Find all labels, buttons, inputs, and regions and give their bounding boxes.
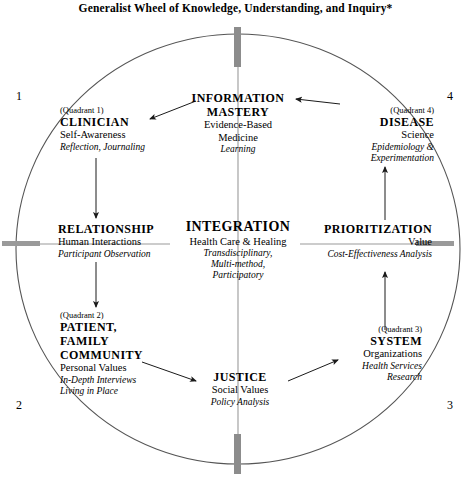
patient-method-line1: In-Depth Interviews xyxy=(60,375,200,386)
integration-heading: INTEGRATION xyxy=(168,219,308,236)
information-mastery-subject-line2: Medicine xyxy=(178,132,298,144)
system-quadrant-label: (Quadrant 3) xyxy=(312,324,422,334)
disease-method-line1: Epidemiology & xyxy=(318,142,434,153)
corner-number-2: 2 xyxy=(16,398,22,413)
patient-heading-line3: COMMUNITY xyxy=(60,348,200,362)
corner-number-3: 3 xyxy=(447,398,453,413)
node-patient-family-community: (Quadrant 2) PATIENT, FAMILY COMMUNITY P… xyxy=(60,310,200,397)
clinician-heading: CLINICIAN xyxy=(60,115,180,129)
patient-heading-line2: FAMILY xyxy=(60,334,200,348)
corner-number-4: 4 xyxy=(447,89,453,104)
patient-heading-line1: PATIENT, xyxy=(60,320,200,334)
information-mastery-subject-line1: Evidence-Based xyxy=(178,119,298,131)
corner-number-1: 1 xyxy=(16,89,22,104)
axis-marker-top xyxy=(234,27,241,67)
figure-canvas: Generalist Wheel of Knowledge, Understan… xyxy=(0,0,471,480)
prioritization-method: Cost-Effectiveness Analysis xyxy=(300,249,432,260)
node-system: (Quadrant 3) SYSTEM Organizations Health… xyxy=(312,324,422,383)
clinician-method: Reflection, Journaling xyxy=(60,142,180,153)
prioritization-subject: Value xyxy=(300,236,432,248)
system-subject: Organizations xyxy=(312,348,422,360)
information-mastery-heading-line1: INFORMATION xyxy=(178,91,298,105)
system-method-line2: Research xyxy=(312,372,422,383)
axis-marker-bottom xyxy=(234,434,241,474)
disease-method-line2: Experimentation xyxy=(318,153,434,164)
information-mastery-method: Learning xyxy=(178,144,298,155)
information-mastery-heading-line2: MASTERY xyxy=(178,105,298,119)
justice-heading: JUSTICE xyxy=(190,370,290,384)
prioritization-heading: PRIORITIZATION xyxy=(300,222,432,236)
node-justice: JUSTICE Social Values Policy Analysis xyxy=(190,370,290,408)
system-heading: SYSTEM xyxy=(312,334,422,348)
node-prioritization: PRIORITIZATION Value Cost-Effectiveness … xyxy=(300,222,432,260)
system-method-line1: Health Services xyxy=(312,361,422,372)
justice-method: Policy Analysis xyxy=(190,397,290,408)
clinician-subject: Self-Awareness xyxy=(60,129,180,141)
clinician-quadrant-label: (Quadrant 1) xyxy=(60,105,180,115)
justice-subject: Social Values xyxy=(190,384,290,396)
axis-marker-left xyxy=(2,241,40,246)
disease-subject: Science xyxy=(318,129,434,141)
node-disease: (Quadrant 4) DISEASE Science Epidemiolog… xyxy=(318,105,434,164)
disease-quadrant-label: (Quadrant 4) xyxy=(318,105,434,115)
arrow-disease-to-mastery xyxy=(296,99,340,104)
integration-method-line3: Participatory xyxy=(168,270,308,281)
disease-heading: DISEASE xyxy=(318,115,434,129)
patient-method-line2: Living in Place xyxy=(60,386,200,397)
patient-subject: Personal Values xyxy=(60,362,200,374)
integration-method-line2: Multi-method, xyxy=(168,259,308,270)
patient-quadrant-label: (Quadrant 2) xyxy=(60,310,200,320)
integration-method-line1: Transdisciplinary, xyxy=(168,248,308,259)
integration-subject: Health Care & Healing xyxy=(168,236,308,248)
node-clinician: (Quadrant 1) CLINICIAN Self-Awareness Re… xyxy=(60,105,180,153)
node-integration: INTEGRATION Health Care & Healing Transd… xyxy=(168,219,308,282)
node-information-mastery: INFORMATION MASTERY Evidence-Based Medic… xyxy=(178,91,298,155)
